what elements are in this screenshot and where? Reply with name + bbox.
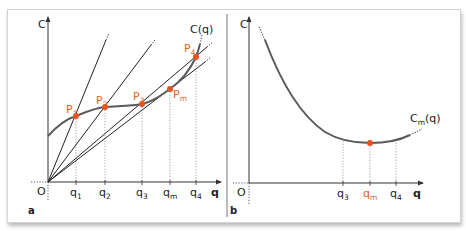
y-axis-label: C	[38, 18, 46, 31]
guide-lines	[76, 57, 196, 182]
panel-a-label: a	[28, 205, 35, 216]
y-axis-label-b: C	[240, 18, 248, 31]
panel-b-label: b	[230, 205, 237, 216]
tick-q4: q4	[190, 186, 202, 201]
tick-q3: q3	[136, 186, 148, 201]
label-p4: P4	[184, 42, 196, 57]
avg-cost-curve-end-extension	[410, 129, 422, 135]
cost-diagram: C C(q) O q P1 P2 P3 Pm P4 q1 q2 q3 qm q4…	[0, 0, 466, 231]
x-axis-label-b: q	[413, 187, 421, 200]
x-axis-label: q	[211, 186, 219, 199]
label-p3: P3	[133, 90, 145, 105]
label-p1: P1	[66, 103, 78, 118]
label-p2: P2	[96, 94, 108, 109]
origin-label-b: O	[237, 186, 246, 199]
tick-qm-b: qm	[363, 187, 377, 202]
tick-q4-b: q4	[390, 187, 402, 202]
panel-b: C O q Cm(q) q3 qm q4 b	[230, 17, 441, 216]
guide-lines-b	[343, 140, 396, 183]
tick-q3-b: q3	[337, 187, 349, 202]
cost-curve-extension	[200, 35, 202, 44]
label-pm: Pm	[173, 88, 187, 103]
tick-q1: q1	[70, 186, 82, 201]
tick-qm: qm	[163, 186, 177, 201]
minimum-point	[367, 140, 373, 146]
panel-a: C C(q) O q P1 P2 P3 Pm P4 q1 q2 q3 qm q4…	[28, 17, 221, 216]
origin-label: O	[37, 185, 46, 198]
curve-label: C(q)	[190, 23, 213, 36]
tick-q2: q2	[99, 186, 111, 201]
average-cost-curve	[265, 40, 410, 143]
avg-cost-curve-start-extension	[259, 27, 265, 40]
avg-curve-label: Cm(q)	[410, 112, 441, 127]
